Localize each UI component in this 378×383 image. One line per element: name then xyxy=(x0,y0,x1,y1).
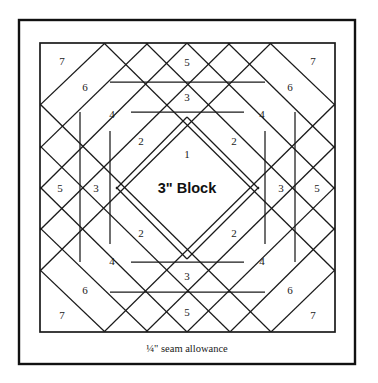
quilt-pattern-page: 1222233334444555566667777 3" Block ¼" se… xyxy=(0,0,378,383)
piece-number-p4-tl: 4 xyxy=(109,108,115,120)
piece-number-p5-right: 5 xyxy=(314,182,320,194)
piece-number-p7-tl: 7 xyxy=(59,55,65,67)
piece-number-p6-tr: 6 xyxy=(287,81,293,93)
piece-number-p7-bl: 7 xyxy=(59,309,65,321)
piece-number-p5-left: 5 xyxy=(57,182,63,194)
quilt-block-diagram: 1222233334444555566667777 3" Block ¼" se… xyxy=(0,0,378,383)
piece-number-p6-br: 6 xyxy=(287,284,293,296)
piece-number-p5-top: 5 xyxy=(184,56,190,68)
piece-number-p1: 1 xyxy=(184,148,190,160)
piece-number-p3-top: 3 xyxy=(184,91,190,103)
piece-number-p6-tl: 6 xyxy=(82,81,88,93)
piece-number-p2-bl: 2 xyxy=(138,227,144,239)
piece-number-p4-br: 4 xyxy=(259,255,265,267)
piece-number-p7-tr: 7 xyxy=(310,55,316,67)
piece-number-p2-tl: 2 xyxy=(138,135,144,147)
piece-number-p5-bottom: 5 xyxy=(184,306,190,318)
piece-number-p3-left: 3 xyxy=(93,182,99,194)
piece-number-p4-tr: 4 xyxy=(259,108,265,120)
center-block-label: 3" Block xyxy=(158,180,217,196)
piece-number-p2-tr: 2 xyxy=(231,135,237,147)
piece-number-p6-bl: 6 xyxy=(82,284,88,296)
seam-allowance-label: ¼" seam allowance xyxy=(146,343,228,354)
piece-number-p4-bl: 4 xyxy=(109,255,115,267)
piece-number-p2-br: 2 xyxy=(231,227,237,239)
piece-number-p3-bottom: 3 xyxy=(184,270,190,282)
piece-number-p7-br: 7 xyxy=(310,309,316,321)
piece-number-p3-right: 3 xyxy=(278,182,284,194)
